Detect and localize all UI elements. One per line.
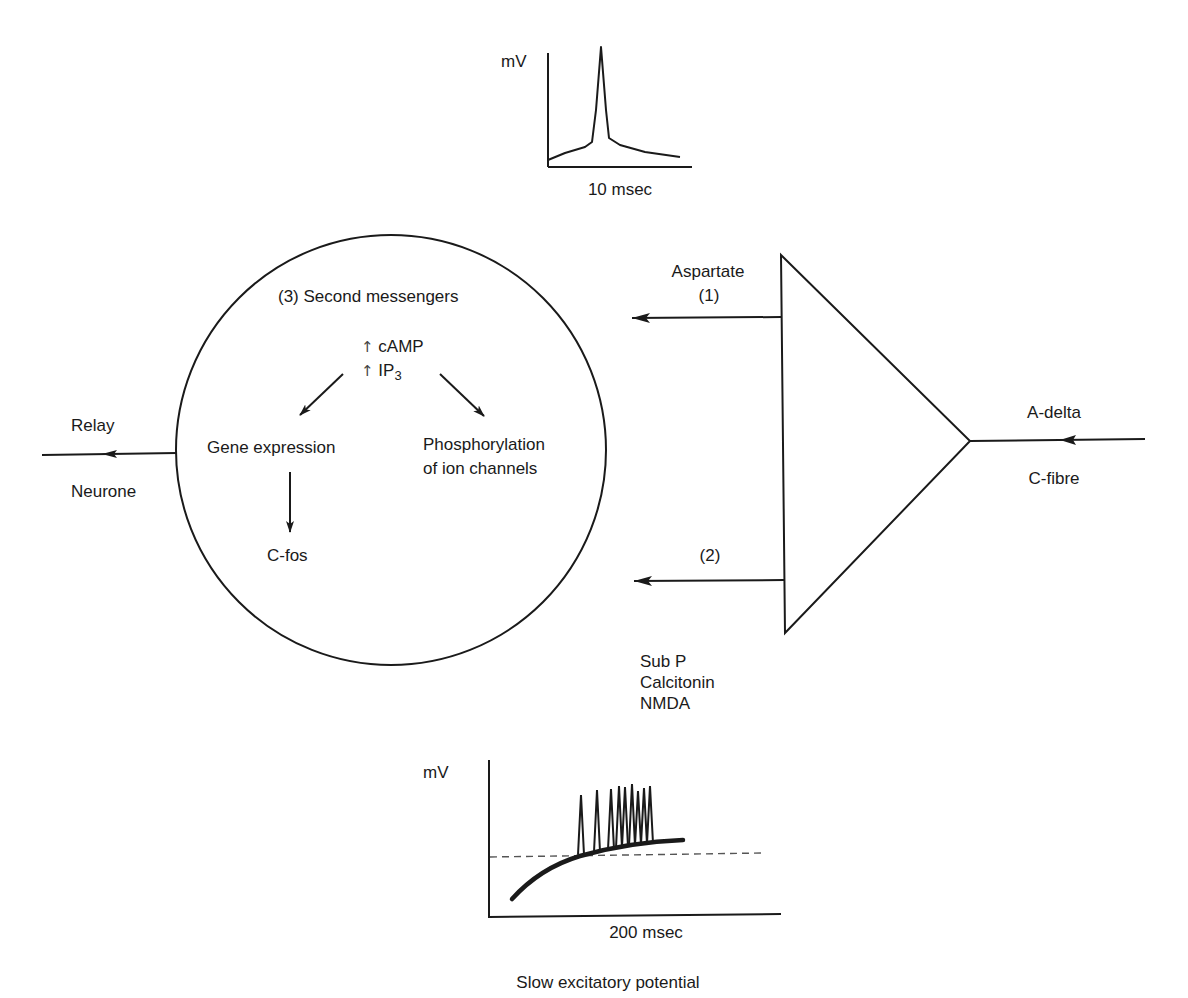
action-potential-spike (629, 784, 635, 846)
input-fibre-line (970, 439, 1145, 441)
aspartate-label: Aspartate (672, 262, 745, 282)
camp-label: ↑ cAMP (361, 337, 424, 357)
bottom-graph (489, 760, 781, 918)
neurone-label: Neurone (71, 482, 136, 502)
pathway-1-arrow (632, 317, 781, 318)
pathway-2-label: (2) (700, 546, 721, 566)
neurotransmitter-nmda: NMDA (640, 694, 690, 714)
phosphorylation-label-line2: of ion channels (423, 459, 537, 479)
arrow-to-gene-expression (300, 374, 343, 415)
ip3-label: ↑ IP3 (361, 361, 402, 382)
arrow-to-phosphorylation (440, 374, 484, 416)
action-potential-spike (578, 795, 584, 855)
pathway-1-label: (1) (699, 286, 720, 306)
action-potential-spike (594, 790, 600, 852)
action-potential-trace (548, 47, 680, 160)
gene-expression-label: Gene expression (207, 438, 336, 458)
neurotransmitter-sub-p: Sub P (640, 652, 686, 672)
a-delta-label: A-delta (1027, 403, 1081, 423)
top-graph (548, 47, 692, 167)
slow-potential-curve (512, 840, 683, 899)
c-fibre-label: C-fibre (1028, 469, 1079, 489)
second-messengers-title: (3) Second messengers (278, 287, 458, 307)
diagram-canvas: mV 10 msec (3) Second messengers ↑ cAMP … (0, 0, 1188, 998)
top-graph-x-label: 10 msec (588, 180, 652, 200)
phosphorylation-label-line1: Phosphorylation (423, 435, 545, 455)
c-fos-label: C-fos (267, 546, 308, 566)
relay-label: Relay (71, 416, 114, 436)
bottom-graph-y-label: mV (423, 763, 449, 783)
action-potential-spike (635, 791, 641, 845)
action-potential-spike (641, 788, 647, 844)
action-potential-spike (616, 786, 622, 848)
top-graph-y-label: mV (501, 52, 527, 72)
threshold-dashed-line (490, 853, 763, 857)
action-potential-spike (622, 787, 628, 847)
neurotransmitter-calcitonin: Calcitonin (640, 673, 715, 693)
bottom-graph-x-axis (489, 914, 781, 917)
presynaptic-terminal-triangle (781, 255, 970, 633)
slow-excitatory-potential-caption: Slow excitatory potential (516, 973, 699, 993)
action-potential-spike (647, 786, 653, 843)
action-potential-spike (608, 789, 614, 849)
spike-train (578, 784, 653, 855)
diagram-lines (0, 0, 1188, 998)
up-arrow-icon: ↑ (361, 338, 374, 356)
up-arrow-icon: ↑ (361, 362, 374, 380)
bottom-graph-x-label: 200 msec (609, 923, 683, 943)
pathway-2-arrow (634, 580, 784, 581)
